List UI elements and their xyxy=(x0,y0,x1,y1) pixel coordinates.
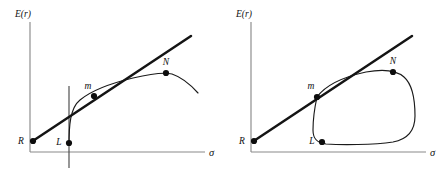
point-N-label-right: N xyxy=(389,56,397,66)
point-R-right xyxy=(251,138,257,144)
point-m-label-right: m xyxy=(307,81,314,91)
right-panel: R m L N E(r) σ xyxy=(221,0,442,170)
point-R-label-right: R xyxy=(238,136,245,146)
y-axis-label-left: E(r) xyxy=(14,9,31,20)
point-R-label-left: R xyxy=(17,136,24,146)
point-N-right xyxy=(390,69,396,75)
point-L-right xyxy=(319,139,325,145)
point-N-label-left: N xyxy=(162,57,170,67)
point-m-right xyxy=(314,94,320,100)
point-L-left xyxy=(66,140,72,146)
point-R-left xyxy=(30,138,36,144)
point-m-left xyxy=(91,93,97,99)
minimum-variance-closed-curve-right xyxy=(313,70,415,144)
x-axis-label-right: σ xyxy=(430,147,436,158)
y-axis-label-right: E(r) xyxy=(235,9,252,20)
capital-market-line-right xyxy=(253,36,412,142)
capital-market-line-left xyxy=(32,36,191,142)
x-axis-label-left: σ xyxy=(209,147,215,158)
point-L-label-right: L xyxy=(308,136,314,146)
point-L-label-left: L xyxy=(55,137,61,147)
point-m-label-left: m xyxy=(84,81,91,91)
left-panel: R m L N E(r) σ xyxy=(0,0,221,170)
point-N-left xyxy=(163,70,169,76)
figure-root: R m L N E(r) σ R m xyxy=(0,0,442,170)
